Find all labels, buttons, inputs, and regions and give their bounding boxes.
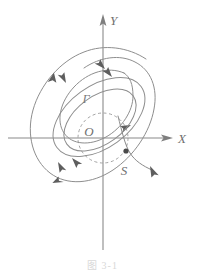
phase-portrait-svg: X Y O Γ S — [0, 0, 205, 270]
gamma-orbit-arrow-top — [94, 59, 106, 69]
outer-spiral-path — [30, 48, 155, 182]
gamma-orbit-label: Γ — [81, 92, 90, 106]
middle-orbit-arrow-upper-left — [56, 70, 70, 83]
middle-orbit — [39, 61, 160, 174]
gamma-orbit-arrow-bottom — [70, 158, 82, 169]
middle-orbit-arrow-lower-left — [54, 162, 68, 175]
x-axis-label: X — [177, 131, 187, 146]
point-s-dot — [123, 148, 128, 153]
y-axis-label: Y — [110, 13, 119, 28]
y-axis-group — [100, 14, 107, 250]
point-s-label: S — [121, 163, 128, 178]
figure-caption-strip: 图 3-1 — [0, 256, 205, 270]
figure-caption: 图 3-1 — [87, 261, 118, 270]
origin-label: O — [84, 124, 94, 139]
figure-container: X Y O Γ S 图 3-1 — [0, 0, 205, 270]
middle-orbit-ellipse — [39, 61, 160, 172]
outer-spiral-orbit — [30, 48, 155, 186]
